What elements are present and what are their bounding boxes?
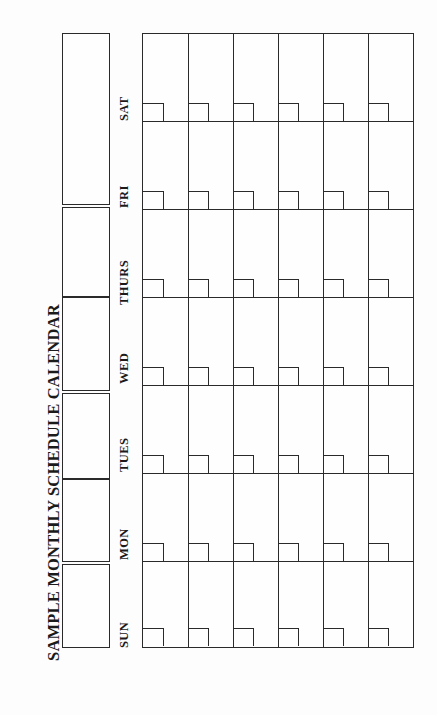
date-box[interactable] — [233, 191, 254, 209]
date-box[interactable] — [323, 628, 344, 646]
date-box[interactable] — [368, 543, 389, 561]
date-box[interactable] — [143, 455, 164, 473]
date-box[interactable] — [233, 367, 254, 385]
date-box[interactable] — [143, 628, 164, 646]
day-label-mon: MON — [118, 536, 131, 560]
date-box[interactable] — [368, 455, 389, 473]
date-box[interactable] — [323, 543, 344, 561]
day-label-sat: SAT — [118, 97, 131, 121]
calendar-grid[interactable] — [142, 33, 414, 648]
date-box[interactable] — [278, 543, 299, 561]
calendar-page: SAMPLE MONTHLY SCHEDULE CALENDAR FAMILY … — [0, 0, 437, 715]
category-box-job-related-lower[interactable] — [62, 297, 110, 391]
day-label-wed: WED — [118, 360, 131, 384]
date-box[interactable] — [143, 367, 164, 385]
date-box[interactable] — [278, 279, 299, 297]
date-box[interactable] — [323, 455, 344, 473]
category-box-personal-lower[interactable] — [62, 479, 110, 562]
date-box[interactable] — [233, 543, 254, 561]
date-box[interactable] — [323, 191, 344, 209]
date-box[interactable] — [188, 628, 209, 646]
date-box[interactable] — [143, 103, 164, 121]
date-box[interactable] — [233, 103, 254, 121]
date-box[interactable] — [323, 367, 344, 385]
date-box[interactable] — [323, 103, 344, 121]
date-box[interactable] — [233, 628, 254, 646]
date-box[interactable] — [368, 367, 389, 385]
date-box[interactable] — [143, 191, 164, 209]
category-box-job-related-upper[interactable] — [62, 207, 110, 297]
date-box[interactable] — [323, 279, 344, 297]
category-box-family[interactable] — [62, 564, 110, 648]
date-box[interactable] — [368, 279, 389, 297]
date-box[interactable] — [278, 455, 299, 473]
date-box[interactable] — [143, 279, 164, 297]
date-box[interactable] — [188, 543, 209, 561]
category-box-misc[interactable] — [62, 33, 110, 205]
date-box[interactable] — [233, 455, 254, 473]
day-label-thurs: THURS — [118, 281, 131, 305]
day-label-sun: SUN — [118, 624, 131, 648]
date-box[interactable] — [188, 367, 209, 385]
date-box[interactable] — [278, 191, 299, 209]
date-box[interactable] — [188, 103, 209, 121]
date-box[interactable] — [278, 367, 299, 385]
category-box-personal-upper[interactable] — [62, 393, 110, 479]
date-box[interactable] — [368, 103, 389, 121]
date-box[interactable] — [278, 628, 299, 646]
date-box[interactable] — [188, 279, 209, 297]
date-box[interactable] — [368, 191, 389, 209]
date-box[interactable] — [278, 103, 299, 121]
date-box[interactable] — [233, 279, 254, 297]
day-label-fri: FRI — [118, 184, 131, 208]
day-label-tues: TUES — [118, 448, 131, 472]
category-box-column — [62, 33, 110, 648]
date-box[interactable] — [143, 543, 164, 561]
date-box[interactable] — [188, 191, 209, 209]
date-box[interactable] — [368, 628, 389, 646]
date-box[interactable] — [188, 455, 209, 473]
day-label-column: SUN MON TUES WED THURS FRI SAT — [118, 33, 142, 648]
